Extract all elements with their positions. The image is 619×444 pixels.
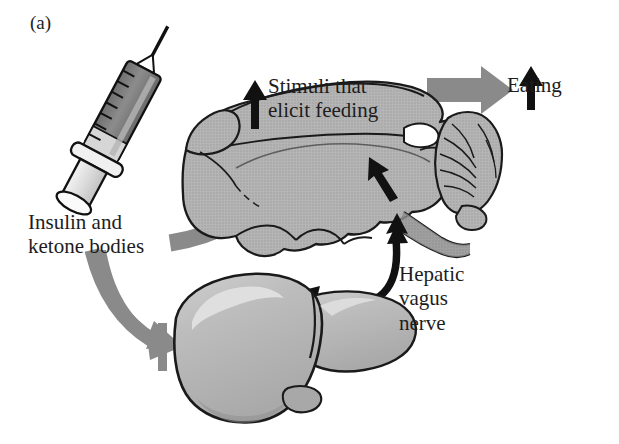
liver-illustration bbox=[174, 274, 416, 423]
panel-label: (a) bbox=[30, 12, 51, 34]
figure-panel-a: (a) Stimuli that elicit feeding Eating I… bbox=[0, 0, 619, 444]
inhibition-bar-icon bbox=[158, 323, 167, 371]
cerebellum bbox=[435, 112, 502, 230]
stimuli-label: Stimuli that elicit feeding bbox=[268, 74, 378, 123]
hepatic-vagus-nerve-label: Hepatic vagus nerve bbox=[399, 262, 464, 335]
eating-label: Eating bbox=[507, 73, 562, 97]
gallbladder bbox=[283, 386, 321, 412]
gray-arrow-syringe-to-liver bbox=[92, 250, 186, 360]
insulin-label: Insulin and ketone bodies bbox=[28, 210, 144, 259]
syringe-illustration bbox=[45, 13, 192, 223]
